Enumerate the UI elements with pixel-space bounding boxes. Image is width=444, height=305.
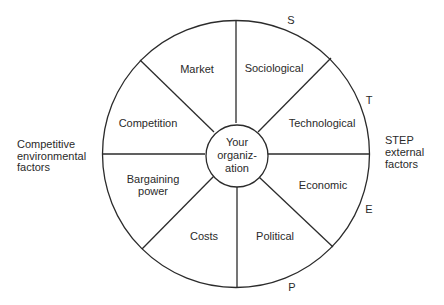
left-caption-line-3: factors [17,161,51,173]
center-label-line-1: Your [226,136,249,148]
segment-label-economic: Economic [299,179,348,191]
rim-letter-e: E [365,203,372,215]
segment-label-sociological: Sociological [245,62,304,74]
segment-label-market: Market [180,63,214,75]
step-competitive-factors-diagram: Your organiz- ation Market Sociological … [0,0,444,305]
segment-label-technological: Technological [289,117,356,129]
rim-letter-s: S [287,14,294,26]
segment-label-competition: Competition [119,117,178,129]
segment-label-bargaining-power-line-2: power [138,185,168,197]
rim-letter-t: T [366,94,373,106]
right-caption-line-2: external [385,146,424,158]
right-caption: STEP external factors [385,134,424,170]
rim-letter-p: P [288,281,295,293]
left-caption: Competitive environmental factors [17,138,86,173]
right-caption-line-1: STEP [385,134,414,146]
right-caption-line-3: factors [385,158,419,170]
segment-label-bargaining-power-line-1: Bargaining [127,173,180,185]
center-label-line-2: organiz- [217,149,257,161]
segment-label-costs: Costs [190,230,219,242]
segment-label-political: Political [256,230,294,242]
left-caption-line-1: Competitive [17,138,75,150]
center-label-line-3: ation [225,162,249,174]
